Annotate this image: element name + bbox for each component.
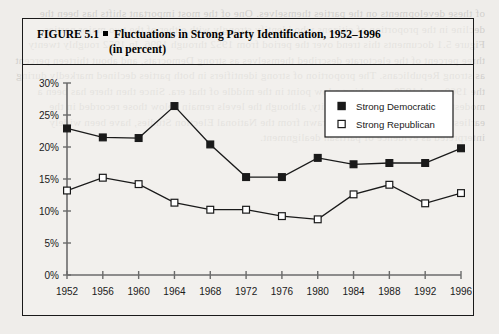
data-point-marker <box>386 160 393 167</box>
x-tick-label: 1992 <box>414 286 437 297</box>
x-tick-label: 1988 <box>378 286 401 297</box>
figure-title-line2: (in percent) <box>37 42 473 57</box>
data-point-marker <box>386 181 393 188</box>
figure-title-line1: Fluctuations in Strong Party Identificat… <box>114 28 381 40</box>
x-tick-label: 1984 <box>342 286 365 297</box>
data-point-marker <box>171 199 178 206</box>
line-chart: 0%5%10%15%20%25%30%195219561960196419681… <box>23 65 472 308</box>
data-point-marker <box>314 154 321 161</box>
data-point-marker <box>207 206 214 213</box>
caption-bullet-icon <box>103 31 108 36</box>
data-point-marker <box>207 141 214 148</box>
legend-marker-filled-square <box>338 102 345 109</box>
data-point-marker <box>279 174 286 181</box>
y-tick-label: 0% <box>45 270 60 281</box>
x-tick-label: 1976 <box>271 286 294 297</box>
y-tick-label: 15% <box>39 174 59 185</box>
data-point-marker <box>171 103 178 110</box>
x-tick-label: 1960 <box>128 286 151 297</box>
data-point-marker <box>350 191 357 198</box>
data-point-marker <box>279 213 286 220</box>
data-point-marker <box>243 206 250 213</box>
data-point-marker <box>99 174 106 181</box>
x-tick-label: 1956 <box>92 286 115 297</box>
data-point-marker <box>350 161 357 168</box>
y-tick-label: 10% <box>39 206 59 217</box>
chart-plot-area: 0%5%10%15%20%25%30%195219561960196419681… <box>23 65 473 308</box>
data-point-marker <box>458 145 465 152</box>
y-tick-label: 25% <box>39 110 59 121</box>
x-tick-label: 1968 <box>199 286 222 297</box>
x-tick-label: 1980 <box>307 286 330 297</box>
data-point-marker <box>422 200 429 207</box>
figure-container: FIGURE 5.1Fluctuations in Strong Party I… <box>22 18 474 316</box>
x-tick-label: 1952 <box>56 286 79 297</box>
x-tick-label: 1964 <box>163 286 186 297</box>
legend-box <box>325 91 453 137</box>
y-tick-label: 30% <box>39 78 59 89</box>
data-point-marker <box>64 187 71 194</box>
data-point-marker <box>135 181 142 188</box>
data-point-marker <box>458 190 465 197</box>
x-tick-label: 1996 <box>450 286 472 297</box>
data-point-marker <box>99 134 106 141</box>
x-tick-label: 1972 <box>235 286 258 297</box>
legend-marker-open-square <box>338 120 345 127</box>
series-line-strong-republican <box>67 178 461 220</box>
data-point-marker <box>135 135 142 142</box>
y-tick-label: 20% <box>39 142 59 153</box>
legend-label: Strong Republican <box>356 119 435 130</box>
data-point-marker <box>422 160 429 167</box>
data-point-marker <box>243 174 250 181</box>
data-point-marker <box>64 125 71 132</box>
legend-label: Strong Democratic <box>356 101 436 112</box>
figure-caption: FIGURE 5.1Fluctuations in Strong Party I… <box>23 19 473 65</box>
y-tick-label: 5% <box>45 238 60 249</box>
data-point-marker <box>314 216 321 223</box>
figure-number: FIGURE 5.1 <box>37 28 99 40</box>
